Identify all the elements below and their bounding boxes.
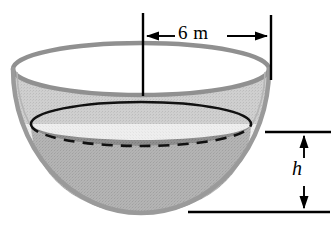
figure-container: 6 m h [0, 0, 336, 237]
height-label: h [292, 158, 302, 178]
diameter-label: 6 m [178, 23, 209, 42]
bowl-body [13, 43, 269, 214]
hemispherical-bowl-diagram [0, 0, 336, 237]
bowl-rim-ellipse [13, 43, 269, 95]
